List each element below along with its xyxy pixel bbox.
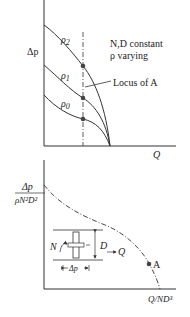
diameter-label: D — [99, 240, 108, 251]
point-a-label: A — [153, 259, 161, 270]
annotation-line1: N,D constant — [110, 38, 163, 49]
locus-label: Locus of A — [113, 77, 158, 88]
locus-leader — [85, 81, 111, 87]
pump-inset: N D Q Δp — [49, 230, 126, 273]
bottom-y-label-den: ρN²D² — [14, 195, 38, 205]
speed-label: N — [49, 241, 58, 252]
point-a-rho1 — [81, 96, 86, 101]
curve-rho0 — [44, 95, 110, 146]
top-x-label: Q — [153, 149, 161, 160]
diagram-canvas: Δp Q ρ2 ρ1 ρ0 N,D constant ρ varying Loc… — [0, 0, 190, 317]
curve-label-rho0: ρ0 — [60, 98, 70, 111]
flow-label: Q — [118, 246, 126, 257]
pressure-label: Δp — [68, 264, 78, 273]
point-a-rho0 — [81, 117, 86, 122]
top-chart: Δp Q ρ2 ρ1 ρ0 N,D constant ρ varying Loc… — [27, 0, 176, 160]
curve-label-rho2: ρ2 — [60, 34, 70, 47]
curve-rho2 — [44, 25, 110, 146]
bottom-x-label: Q/ND³ — [148, 294, 173, 304]
point-a-rho2 — [81, 64, 86, 69]
top-y-label: Δp — [27, 46, 38, 57]
bottom-chart: Δp ρN²D² Q/ND³ A N D Q Δp — [14, 160, 176, 304]
point-a — [147, 262, 152, 267]
performance-curve — [44, 185, 160, 289]
rotation-arrow-icon — [60, 243, 67, 252]
bottom-y-label-num: Δp — [21, 181, 33, 192]
annotation-line2: ρ varying — [110, 50, 148, 61]
curve-rho1 — [44, 65, 110, 146]
